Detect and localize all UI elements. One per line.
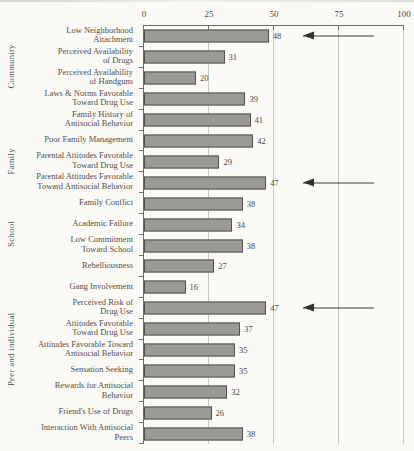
x-tick-label: 25 [205,9,214,19]
row-tick [139,297,144,298]
category-label-line: of Drugs [103,56,133,65]
category-label: Perceived Availabilityof Handguns [0,67,138,88]
bar-value-label: 47 [270,303,279,313]
category-label: Low NeighborhoodAttachment [0,25,138,46]
row-tick [139,401,144,402]
bar-row: 39 [144,89,404,110]
category-label: Low CommitmentToward School [0,234,138,255]
row-tick [139,318,144,319]
bar [144,93,245,106]
category-label: Parental Attitudes FavorableToward Antis… [0,171,138,192]
category-labels: Low NeighborhoodAttachmentPerceived Avai… [0,25,138,443]
bar-value-label: 34 [236,220,245,230]
bar-row: 35 [144,361,404,382]
row-tick [139,171,144,172]
row-tick [139,422,144,423]
bar-row: 47 [144,298,404,319]
arrow-head-icon [303,32,314,40]
category-label-line: Friend's Use of Drugs [59,407,133,416]
bar [144,364,235,377]
bar-row: 38 [144,423,404,444]
bar [144,385,227,398]
bar-row: 29 [144,151,404,172]
row-tick [139,109,144,110]
bar [144,134,253,147]
bar [144,51,225,64]
bar [144,114,251,127]
row-tick [139,67,144,68]
category-label: Interaction With AntisocialPeers [0,422,138,443]
category-label-line: Drug Use [100,307,133,316]
bar [144,155,219,168]
category-label: Gang Involvement [0,276,138,297]
category-label-line: Behavior [102,391,133,400]
bar [144,197,243,210]
row-tick [139,192,144,193]
category-label: Attitudes FavorableToward Drug Use [0,318,138,339]
category-label-line: Toward Antisocial Behavior [37,182,133,191]
category-label-line: Toward Drug Use [72,328,133,337]
row-tick [139,130,144,131]
row-tick [139,339,144,340]
bar-value-label: 29 [223,157,232,167]
category-label: Family History ofAntisocial Behavior [0,109,138,130]
bar [144,427,243,440]
bar-row: 32 [144,381,404,402]
category-label: Laws & Norms FavorableToward Drug Use [0,88,138,109]
row-tick [139,380,144,381]
scan-edge [0,0,414,2]
bar-value-label: 37 [244,324,253,334]
category-label: Academic Failure [0,213,138,234]
bar [144,239,243,252]
category-label: Perceived Risk ofDrug Use [0,297,138,318]
bar-row: 38 [144,235,404,256]
x-tick-label: 100 [397,9,411,19]
bar [144,302,266,315]
bar-value-label: 35 [239,366,248,376]
category-label: Attitudes Favorable TowardAntisocial Beh… [0,339,138,360]
category-label-line: Antisocial Behavior [65,119,133,128]
category-label-line: Antisocial Behavior [65,349,133,358]
bar-row: 26 [144,402,404,423]
row-tick [139,255,144,256]
arrow-head-icon [303,304,314,312]
bar-value-label: 48 [273,31,282,41]
row-tick [139,88,144,89]
bar [144,344,235,357]
category-label-line: Toward School [81,245,133,254]
row-tick [139,46,144,47]
bar-value-label: 41 [255,115,264,125]
bar-row: 41 [144,110,404,131]
category-label-line: Gang Involvement [70,282,134,291]
bar-row: 47 [144,172,404,193]
bar-row: 38 [144,193,404,214]
bar-rows: 4831203941422947383438271647373535322638 [144,26,404,444]
highlight-arrow [303,36,374,37]
category-label-line: of Handguns [89,77,133,86]
bar-value-label: 38 [247,241,256,251]
category-label-line: Attachment [93,35,133,44]
category-label: Rebelliousness [0,255,138,276]
bar-value-label: 32 [231,387,240,397]
bar-row: 48 [144,26,404,47]
bar-value-label: 20 [200,73,209,83]
highlight-arrow [303,182,374,183]
bar [144,406,212,419]
category-label: Family Conflict [0,192,138,213]
row-tick [139,276,144,277]
category-label-line: Poor Family Management [44,135,133,144]
row-tick [139,213,144,214]
bar-value-label: 26 [216,408,225,418]
x-tick-label: 50 [270,9,279,19]
bar-value-label: 31 [229,52,238,62]
bar [144,218,232,231]
category-label: Friend's Use of Drugs [0,401,138,422]
category-label-line: Family Conflict [79,198,133,207]
bar-value-label: 38 [247,199,256,209]
category-label-line: Toward Drug Use [72,161,133,170]
row-tick [139,234,144,235]
category-label: Perceived Availabilityof Drugs [0,46,138,67]
category-label: Rewards for AntisocialBehavior [0,380,138,401]
category-label-line: Rebelliousness [82,261,133,270]
bar-value-label: 35 [239,345,248,355]
